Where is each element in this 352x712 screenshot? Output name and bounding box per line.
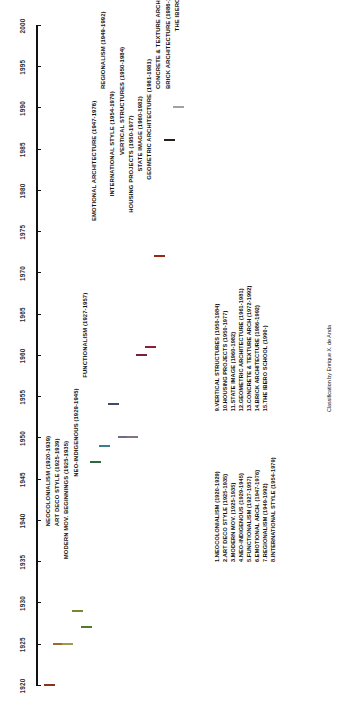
- legend: 1.NEOCOLONIALISM (1920-1929)2.ART DECO S…: [214, 285, 277, 562]
- legend-column-left: 1.NEOCOLONIALISM (1920-1929)2.ART DECO S…: [214, 457, 277, 562]
- timeline-bar-label: NEO-INDIGENOUS (1929-1945): [73, 388, 79, 476]
- axis-tick: [36, 396, 41, 397]
- timeline-bar: [44, 684, 55, 686]
- axis-tick-label: 1990: [19, 101, 26, 116]
- timeline-bar-label: INTERNATIONAL STYLE (1954-1979): [109, 91, 115, 196]
- axis-tick: [36, 190, 41, 191]
- axis-tick-label: 1970: [19, 266, 26, 281]
- timeline-bar: [154, 255, 165, 257]
- axis-tick-label: 1955: [19, 390, 26, 405]
- legend-item: 7.REGIONALISM (1949-1992): [262, 457, 269, 562]
- axis-tick: [36, 231, 41, 232]
- axis-tick-label: 1975: [19, 225, 26, 240]
- legend-column-right: 9.VERTICAL STRUCTURES (1950-1984)10.HOUS…: [214, 285, 277, 411]
- timeline-bars: NEOCOLONIALISM (1920-1939)ART DECO STYLE…: [44, 26, 194, 686]
- legend-item: 4.NEO-INDIGENOUS (1929-1945): [238, 457, 245, 562]
- axis-tick-label: 1985: [19, 142, 26, 157]
- timeline-bar: [136, 354, 147, 356]
- legend-item: 11.STATE IMAGE (1960-1982): [230, 285, 237, 411]
- timeline-bar-label: ART DECO STYLE (1925-1939): [54, 439, 60, 527]
- timeline-bar: [81, 626, 92, 628]
- axis-tick-label: 1980: [19, 183, 26, 198]
- axis-tick: [36, 273, 41, 274]
- timeline-bar-label: EMOTIONAL ARCHITECTURE (1947-1976): [91, 101, 97, 221]
- axis-tick-label: 2000: [19, 18, 26, 33]
- timeline-bar-label: HOUSING PROJECTS (1950-1977): [128, 115, 134, 212]
- axis-tick-label: 1925: [19, 637, 26, 652]
- axis-tick: [36, 644, 41, 645]
- timeline-bar: [164, 140, 175, 142]
- timeline-bar-label: CONCRETE & TEXTURE ARCH (1972-1992): [155, 0, 161, 89]
- credit-line: Classification by Enrique X. de Anda: [326, 325, 332, 412]
- axis-tick: [36, 66, 41, 67]
- timeline-bar-label: STATE IMAGE (1960-1982): [137, 96, 143, 171]
- timeline-bar-label: REGIONALISM (1949-1992): [100, 11, 106, 89]
- axis-tick-label: 1945: [19, 472, 26, 487]
- axis-tick-label: 1960: [19, 348, 26, 363]
- timeline-bar: [173, 107, 184, 109]
- axis-tick: [36, 479, 41, 480]
- timeline-bar-label: VERTICAL STRUCTURES (1950-1984): [119, 47, 125, 155]
- legend-item: 3.MODERN MOV. (1925-1935): [230, 457, 237, 562]
- axis-tick-label: 1920: [19, 678, 26, 693]
- axis-tick-label: 1930: [19, 596, 26, 611]
- axis-tick: [36, 520, 41, 521]
- legend-item: 8.INTERNATIONAL STYLE (1954-1979): [270, 457, 277, 562]
- axis-tick-label: 1950: [19, 431, 26, 446]
- legend-item: 12.GEOMETRIC ARCHITECTURE (1961-1981): [238, 285, 245, 411]
- timeline-bar-label: BRICK ARCHITECTURE (1986-1992): [165, 0, 171, 89]
- legend-item: 1.NEOCOLONIALISM (1920-1929): [214, 457, 221, 562]
- legend-item: 15.THE IBERO SCHOOL (1990-): [262, 285, 269, 411]
- timeline-bar-label: NEOCOLONIALISM (1920-1939): [45, 436, 51, 526]
- axis-tick: [36, 108, 41, 109]
- legend-item: 10.HOUSING PROJECTS (1950-1977): [222, 285, 229, 411]
- axis-tick: [36, 561, 41, 562]
- legend-item: 6.EMOTIONAL ARCH. (1947-1976): [254, 457, 261, 562]
- timeline-bar-label: GEOMETRIC ARCHITECTURE (1961-1981): [146, 59, 152, 180]
- axis-tick-label: 1935: [19, 555, 26, 570]
- timeline-bar-label: FUNCTIONALISM (1927-1957): [82, 293, 88, 378]
- timeline-bar: [127, 437, 138, 439]
- legend-item: 5.FUNCTIONALISM (1927-1957): [246, 457, 253, 562]
- legend-item: 13.CONCRETE & TEXTURE ARCH (1972-1992): [246, 285, 253, 411]
- timeline-bar: [90, 461, 101, 463]
- axis-tick: [36, 438, 41, 439]
- year-axis: [36, 26, 38, 686]
- legend-item: 9.VERTICAL STRUCTURES (1950-1984): [214, 285, 221, 411]
- timeline-bar: [145, 346, 156, 348]
- axis-tick: [36, 25, 41, 26]
- axis-tick-label: 1940: [19, 513, 26, 528]
- axis-tick-label: 1995: [19, 60, 26, 75]
- axis-tick-label: 1965: [19, 307, 26, 322]
- axis-tick: [36, 685, 41, 686]
- timeline-bar-label: MODERN MOV. BEGINNINGS (1925-1935): [63, 441, 69, 559]
- axis-tick: [36, 314, 41, 315]
- timeline-bar-label: THE IBERO SCHOOL (1990-): [174, 0, 180, 31]
- legend-item: 14.BRICK ARCHITECTURE (1986-1992): [254, 285, 261, 411]
- axis-tick: [36, 149, 41, 150]
- timeline-figure: 1920192519301935194019451950195519601965…: [0, 0, 352, 712]
- axis-tick: [36, 355, 41, 356]
- timeline-bar: [99, 445, 110, 447]
- timeline-bar: [62, 643, 73, 645]
- timeline-bar-row: THE IBERO SCHOOL (1990-): [173, 34, 184, 108]
- axis-tick: [36, 603, 41, 604]
- legend-item: 2.ART DECO STYLE (1925-1935): [222, 457, 229, 562]
